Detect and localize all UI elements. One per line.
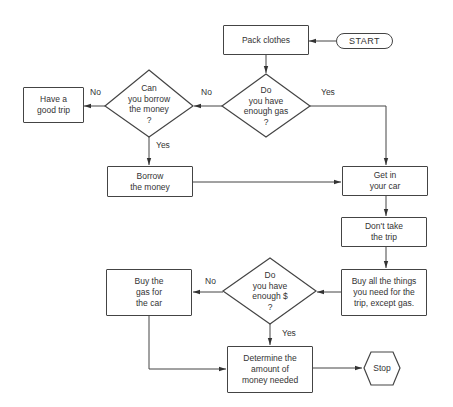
arrow-gas-yes (310, 106, 386, 165)
process-buy-things: Buy all the things you need for the trip… (341, 269, 427, 316)
edge-label-gas-no: No (201, 87, 212, 97)
good-trip-label: Have a good trip (37, 94, 70, 116)
start-terminal: START (336, 33, 393, 49)
edge-label-gas-yes: Yes (321, 87, 335, 97)
process-dont-take-trip: Don't take the trip (341, 217, 427, 247)
decision-enough-money-label: Do you have enough $ ? (252, 270, 287, 312)
arrow-buygas-to-determine (149, 316, 226, 369)
process-have-good-trip: Have a good trip (23, 87, 84, 123)
get-in-car-label: Get in your car (370, 170, 401, 192)
edge-label-money-yes: Yes (282, 328, 296, 338)
determine-amount-label: Determine the amount of money needed (242, 353, 298, 386)
process-pack-clothes: Pack clothes (223, 25, 309, 55)
start-label: START (349, 36, 380, 47)
process-borrow-money: Borrow the money (107, 166, 193, 197)
borrow-money-label: Borrow the money (130, 171, 170, 193)
process-get-in-car: Get in your car (342, 166, 428, 196)
process-determine-amount: Determine the amount of money needed (227, 346, 313, 393)
decision-can-borrow-label: Can you borrow the money ? (128, 83, 170, 125)
decision-enough-gas-label: Do you have enough gas ? (244, 85, 288, 127)
process-buy-gas: Buy the gas for the car (106, 269, 192, 316)
buy-gas-label: Buy the gas for the car (135, 276, 164, 309)
edge-label-borrow-no: No (90, 87, 101, 97)
buy-things-label: Buy all the things you need for the trip… (352, 276, 417, 309)
edge-label-borrow-yes: Yes (156, 140, 170, 150)
dont-take-trip-label: Don't take the trip (365, 221, 403, 243)
stop-label: Stop (373, 363, 391, 374)
pack-clothes-label: Pack clothes (242, 35, 290, 46)
edge-label-money-no: No (205, 276, 216, 286)
